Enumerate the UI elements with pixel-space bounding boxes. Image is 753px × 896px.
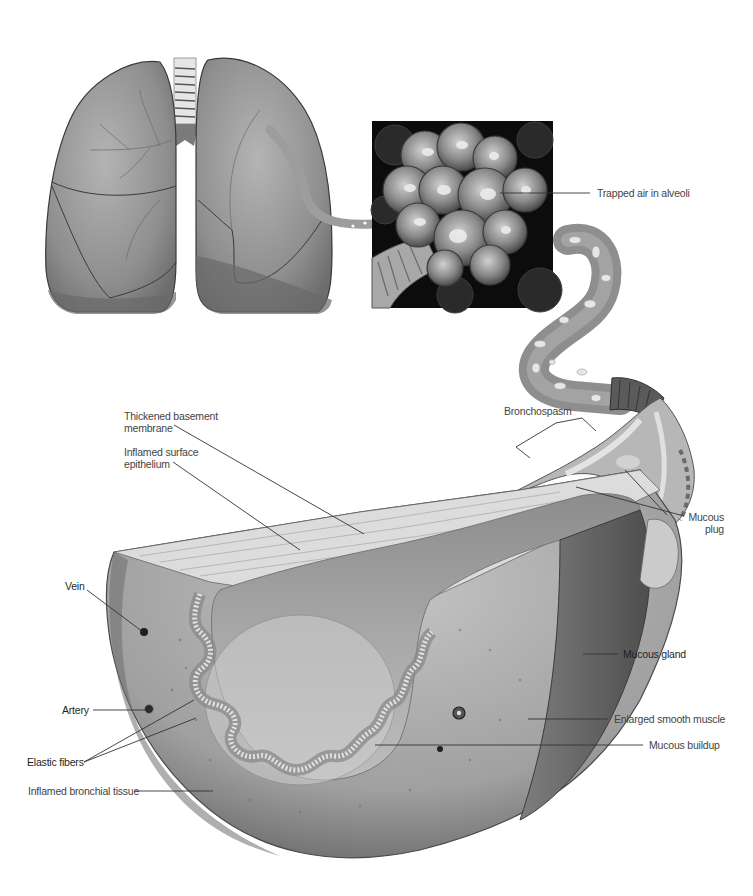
label-inflamed-epithelium-line2: epithelium (124, 458, 170, 471)
label-thickened-membrane-line2: membrane (124, 422, 173, 435)
lungs (46, 58, 372, 314)
vein-dot (140, 628, 148, 636)
artery-dot (145, 705, 154, 714)
label-vein: Vein (65, 580, 85, 593)
label-mucous-plug-line2: plug (676, 523, 724, 536)
label-mucous-buildup: Mucous buildup (649, 739, 720, 752)
label-mucous-gland: Mucous gland (623, 648, 686, 661)
alveoli-inset (371, 121, 562, 313)
mucous-buildup (205, 615, 395, 785)
label-inflamed-bronchial-tissue: Inflamed bronchial tissue (28, 785, 139, 798)
label-elastic-fibers: Elastic fibers (27, 756, 84, 769)
right-lung (46, 62, 176, 312)
label-artery: Artery (62, 704, 89, 717)
bronchus-cross-section (107, 470, 682, 858)
label-thickened-membrane-line1: Thickened basement (124, 410, 218, 423)
label-trapped-air: Trapped air in alveoli (597, 187, 690, 200)
label-bronchospasm: Bronchospasm (504, 405, 572, 418)
label-inflamed-epithelium-line1: Inflamed surface (124, 446, 198, 459)
label-mucous-plug-line1: Mucous (676, 511, 724, 524)
asthma-illustration (0, 0, 753, 896)
label-enlarged-smooth-muscle: Enlarged smooth muscle (614, 713, 725, 726)
